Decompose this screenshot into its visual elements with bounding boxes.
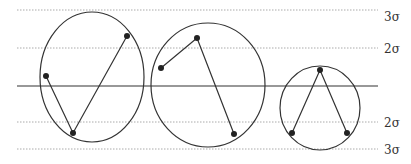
sigma-label-upper-2sigma: 2σ [384,42,400,56]
group-3 [280,66,360,150]
point-groups [40,12,360,150]
data-point [158,65,164,71]
group-circle [280,66,360,150]
sigma-label-lower-3sigma: 3σ [384,143,400,157]
sigma-label-lower-2sigma: 2σ [384,116,400,130]
data-point [344,130,350,136]
sigma-label-upper-3sigma: 3σ [384,10,400,24]
connector-line [46,36,127,133]
data-point [70,130,76,136]
data-point [43,73,49,79]
data-point [317,67,323,73]
data-point [124,33,130,39]
data-point [194,35,200,41]
group-circle [151,23,265,147]
group-2 [151,23,265,147]
data-point [289,130,295,136]
sigma-labels: 3σ2σ2σ3σ [384,10,400,157]
data-point [231,131,237,137]
sigma-control-diagram: 3σ2σ2σ3σ [0,0,411,164]
connector-line [292,70,347,133]
